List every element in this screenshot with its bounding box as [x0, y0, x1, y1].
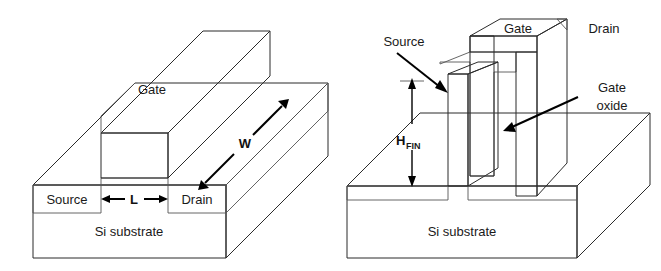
- fin-drain-label: Drain: [588, 21, 619, 36]
- left-gate-label: Gate: [138, 82, 166, 97]
- left-substrate-label: Si substrate: [95, 224, 164, 239]
- fin-gate-oxide-label-line1: Gate: [598, 80, 626, 95]
- fin-height-label: H: [396, 133, 405, 148]
- fin-height-subscript: FIN: [406, 141, 421, 151]
- channel-width-label: W: [239, 136, 252, 151]
- fin-source-label: Source: [383, 34, 424, 49]
- channel-length-label: L: [130, 192, 138, 207]
- device-structure-diagram: Gate Source Drain Si substrate L W: [0, 0, 661, 271]
- figure-root: Gate Source Drain Si substrate L W: [0, 0, 661, 271]
- left-drain-label: Drain: [181, 192, 212, 207]
- fin-gate-label: Gate: [504, 21, 532, 36]
- fin-substrate-label: Si substrate: [428, 224, 497, 239]
- left-source-label: Source: [46, 192, 87, 207]
- fin-gate-oxide-label-line2: oxide: [596, 98, 627, 113]
